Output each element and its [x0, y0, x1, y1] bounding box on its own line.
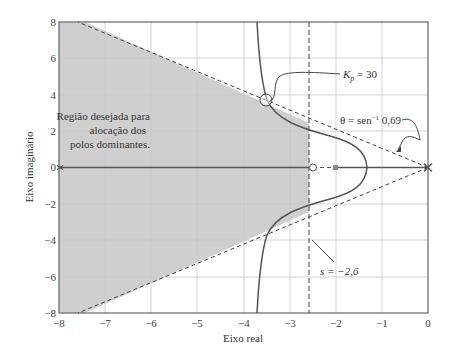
- theta-annotation: θ = sen−1 0,69: [340, 114, 402, 126]
- zero-marker: [310, 164, 317, 171]
- kp-annotation: Kp = 30: [342, 68, 378, 83]
- svg-text:−4: −4: [238, 317, 250, 329]
- root-locus-chart: −8 −7 −6 −5 −4 −3 −2 −1 0 8 6 4 2 0 −2 −…: [0, 0, 449, 355]
- svg-text:4: 4: [51, 89, 57, 101]
- x-axis-label: Eixo real: [223, 332, 263, 344]
- svg-text:−1: −1: [376, 317, 388, 329]
- svg-text:−2: −2: [44, 198, 56, 210]
- svg-text:alocação dos: alocação dos: [90, 124, 147, 136]
- svg-text:−3: −3: [284, 317, 296, 329]
- y-axis-label: Eixo imaginário: [23, 131, 35, 203]
- s-leader-line: [312, 240, 334, 262]
- svg-text:0: 0: [51, 161, 57, 173]
- svg-text:0: 0: [425, 317, 431, 329]
- pole-marker-square: [333, 165, 338, 170]
- svg-text:8: 8: [51, 16, 57, 28]
- svg-text:−8: −8: [44, 307, 56, 319]
- svg-text:2: 2: [51, 125, 57, 137]
- svg-text:−7: −7: [99, 317, 111, 329]
- s-annotation: s = −2,6: [320, 265, 359, 277]
- y-tick-labels: 8 6 4 2 0 −2 −4 −6 −8: [44, 16, 56, 319]
- svg-text:polos dominantes.: polos dominantes.: [70, 138, 150, 150]
- svg-text:−4: −4: [44, 234, 56, 246]
- svg-text:6: 6: [51, 52, 57, 64]
- theta-leader-line: [398, 119, 420, 150]
- svg-text:−6: −6: [44, 271, 56, 283]
- kp-leader-line: [270, 72, 340, 101]
- theta-arrow-icon: [396, 146, 401, 152]
- svg-text:Região desejada para: Região desejada para: [57, 110, 151, 122]
- svg-text:−6: −6: [145, 317, 157, 329]
- svg-text:−2: −2: [330, 317, 342, 329]
- x-tick-labels: −8 −7 −6 −5 −4 −3 −2 −1 0: [53, 317, 431, 329]
- svg-text:−5: −5: [191, 317, 203, 329]
- kp-30-pole-marker: [260, 94, 272, 106]
